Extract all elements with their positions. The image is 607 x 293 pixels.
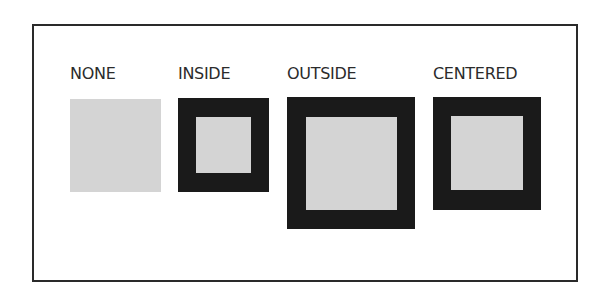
square-none [70, 99, 161, 192]
square-inside-fill [196, 117, 251, 173]
square-centered-fill [451, 116, 523, 190]
label-inside: INSIDE [178, 64, 230, 83]
label-none: NONE [70, 64, 115, 83]
label-centered: CENTERED [433, 64, 517, 83]
square-outside-fill [306, 117, 397, 210]
label-outside: OUTSIDE [287, 64, 356, 83]
